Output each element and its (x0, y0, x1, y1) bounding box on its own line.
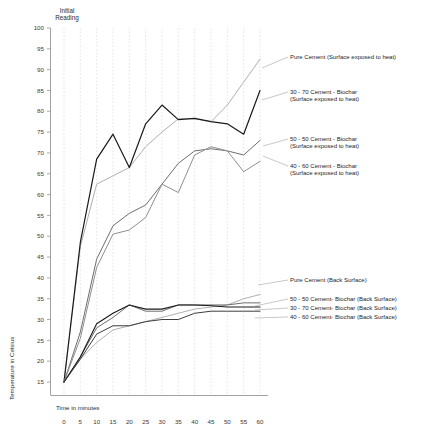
x-tick-label-40: 40 (191, 418, 198, 425)
x-tick-label-5: 5 (79, 418, 83, 425)
y-tick-label-95: 95 (37, 45, 44, 52)
series-line-5 (64, 303, 260, 382)
y-tick-label-90: 90 (37, 66, 44, 73)
legend-label-40-60-surface: 40 - 60 Cement - Biochar (290, 163, 357, 169)
y-tick-label-80: 80 (37, 107, 44, 114)
y-tick-label-75: 75 (37, 128, 44, 135)
legend-label-pure-cement-back: Pure Cement (Back Surface) (290, 277, 367, 283)
x-tick-label-55: 55 (240, 418, 247, 425)
legend-label-50-50-surface: 50 - 50 Cement - Biochar (290, 136, 357, 142)
chart-figure: 1520253035404550556065707580859095100 05… (0, 0, 437, 438)
axis-lines (51, 28, 269, 396)
y-tick-label-35: 35 (37, 295, 44, 302)
x-tick-label-15: 15 (110, 418, 117, 425)
y-tick-label-70: 70 (37, 149, 44, 156)
legend-label-pure-cement-surface: Pure Cement (Surface exposed to heat) (290, 54, 396, 60)
x-tick-label-45: 45 (208, 418, 215, 425)
leader-40-60-back (255, 317, 288, 318)
y-tick-label-55: 55 (37, 212, 44, 219)
y-axis-title: Temperature in Celsius (8, 337, 15, 400)
legend-labels: Pure Cement (Surface exposed to heat)30 … (290, 54, 397, 320)
legend-label-30-70-surface: (Surface exposed to heat) (290, 96, 359, 102)
x-tick-label-20: 20 (126, 418, 133, 425)
y-tick-label-85: 85 (37, 87, 44, 94)
leader-50-50-surface (263, 139, 288, 146)
legend-label-40-60-back: 40 - 60 Cement- Biochar (Back Surface) (290, 314, 397, 320)
legend-label-30-70-back: 30 - 70 Cement- Biochar (Back Surface) (290, 305, 397, 311)
legend-leader-lines (255, 57, 288, 318)
leader-pure-cement-back (258, 280, 288, 285)
x-axis-title: Time in minutes (56, 404, 99, 411)
y-tick-label-40: 40 (37, 274, 44, 281)
y-tick-label-20: 20 (37, 357, 44, 364)
y-axis-ticks: 1520253035404550556065707580859095100 (34, 24, 51, 385)
initial-reading-annotation-line2: Reading (55, 14, 79, 22)
legend-label-50-50-back: 50 - 50 Cement- Biochar (Back Surface) (290, 296, 397, 302)
x-tick-label-0: 0 (62, 418, 66, 425)
y-tick-label-100: 100 (34, 24, 45, 31)
y-tick-label-60: 60 (37, 191, 44, 198)
legend-label-40-60-surface: (Surface exposed to heat) (290, 170, 359, 176)
x-tick-label-60: 60 (257, 418, 264, 425)
y-tick-label-15: 15 (37, 378, 44, 385)
chart-svg: 1520253035404550556065707580859095100 05… (0, 0, 437, 438)
y-tick-label-25: 25 (37, 337, 44, 344)
x-axis-ticks: 051015202530354045505560 (62, 418, 264, 425)
legend-label-30-70-surface: 30 - 70 Cement - Biochar (290, 89, 357, 95)
y-tick-label-30: 30 (37, 316, 44, 323)
x-tick-label-10: 10 (93, 418, 100, 425)
x-tick-label-25: 25 (142, 418, 149, 425)
initial-reading-annotation-line1: Initial (60, 7, 75, 14)
legend-label-50-50-surface: (Surface exposed to heat) (290, 143, 359, 149)
y-tick-label-50: 50 (37, 232, 44, 239)
leader-30-70-surface (262, 92, 288, 100)
x-tick-label-50: 50 (224, 418, 231, 425)
leader-pure-cement-surface (262, 57, 288, 68)
x-tick-label-30: 30 (159, 418, 166, 425)
x-tick-label-35: 35 (175, 418, 182, 425)
y-tick-label-45: 45 (37, 253, 44, 260)
leader-40-60-surface (263, 156, 288, 166)
y-tick-label-65: 65 (37, 170, 44, 177)
